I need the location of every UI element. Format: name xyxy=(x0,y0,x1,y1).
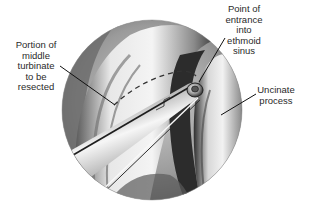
label-line: process xyxy=(250,96,302,107)
label-line: resected xyxy=(6,82,66,93)
endoscope-field-of-view xyxy=(40,20,242,200)
label-line: into xyxy=(216,25,272,36)
label-line: turbinate xyxy=(6,61,66,72)
label-ethmoid-entrance: Point of entrance into ethmoid sinus xyxy=(216,4,272,57)
label-line: Uncinate xyxy=(250,85,302,96)
label-uncinate-process: Uncinate process xyxy=(250,85,302,106)
label-line: sinus xyxy=(216,46,272,57)
label-line: Point of xyxy=(216,4,272,15)
label-line: Portion of xyxy=(6,40,66,51)
label-middle-turbinate: Portion of middle turbinate to be resect… xyxy=(6,40,66,93)
